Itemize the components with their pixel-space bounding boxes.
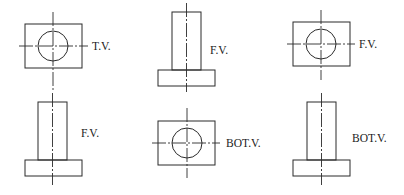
view-5-bottom-view: BOT.V. bbox=[152, 108, 261, 178]
view-1-label: T.V. bbox=[92, 40, 111, 52]
orthographic-views-diagram: T.V. F.V. F.V. F.V. BOT.V. BOT.V. bbox=[0, 0, 404, 195]
view-3-label: F.V. bbox=[359, 38, 377, 50]
base-outline bbox=[25, 160, 82, 176]
view-4-front-view: F.V. bbox=[25, 93, 99, 185]
view-6-bottom-view: BOT.V. bbox=[293, 93, 387, 185]
view-1-top-view: T.V. bbox=[19, 12, 111, 90]
view-6-label: BOT.V. bbox=[352, 132, 387, 144]
view-2-label: F.V. bbox=[210, 44, 228, 56]
view-5-label: BOT.V. bbox=[226, 137, 261, 149]
view-4-label: F.V. bbox=[81, 127, 99, 139]
view-2-front-view: F.V. bbox=[158, 3, 228, 92]
view-3-front-view: F.V. bbox=[287, 10, 377, 80]
